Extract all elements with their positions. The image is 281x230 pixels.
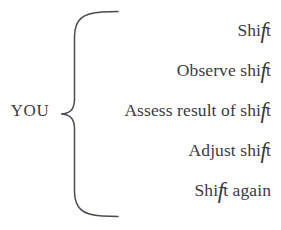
swash-f-glyph: f	[218, 178, 224, 203]
swash-f-glyph: f	[261, 138, 267, 163]
brace-diagram: YOU Shift Observe shift Assess result of…	[0, 0, 281, 230]
item-prefix: Observe shi	[177, 60, 261, 80]
you-label: YOU	[0, 100, 60, 122]
swash-f-glyph: f	[261, 58, 267, 83]
list-item: Observe shift	[96, 50, 271, 90]
item-prefix: Adjust shi	[189, 140, 261, 160]
item-prefix: Shi	[195, 180, 219, 200]
item-prefix: Shi	[237, 20, 261, 40]
swash-f-glyph: f	[261, 18, 267, 43]
item-list: Shift Observe shift Assess result of shi…	[96, 10, 271, 210]
list-item: Shift	[96, 10, 271, 50]
list-item: Adjust shift	[96, 130, 271, 170]
item-suffix: t again	[223, 180, 271, 200]
list-item: Assess result of shift	[96, 90, 271, 130]
swash-f-glyph: f	[261, 98, 267, 123]
item-prefix: Assess result of shi	[124, 100, 261, 120]
list-item: Shift again	[96, 170, 271, 210]
